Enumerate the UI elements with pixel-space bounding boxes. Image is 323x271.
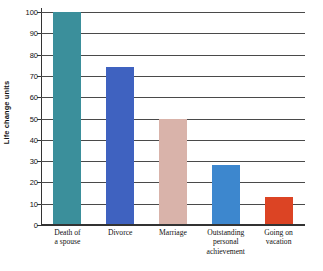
x-axis-category-labels: Death ofa spouseDivorceMarriageOutstandi… [41, 228, 305, 271]
gridline [41, 225, 305, 226]
x-axis-label-line: Going on [252, 228, 305, 237]
bar [106, 67, 134, 225]
y-axis-tick-mark [37, 225, 41, 226]
x-axis-label-line: achievement [199, 247, 252, 256]
x-axis-label-line: personal [199, 237, 252, 246]
x-axis-category-label: Going onvacation [252, 228, 305, 247]
x-axis-category-label: Outstandingpersonalachievement [199, 228, 252, 256]
y-axis-title-text: Life change units [3, 81, 12, 144]
x-axis-label-line: Death of [41, 228, 94, 237]
plot-area [41, 12, 305, 225]
x-axis-category-label: Death ofa spouse [41, 228, 94, 247]
x-axis-label-line: Outstanding [199, 228, 252, 237]
x-axis-category-label: Marriage [147, 228, 200, 237]
x-axis-label-line: vacation [252, 237, 305, 246]
bar [53, 12, 81, 225]
bar [265, 197, 293, 225]
x-axis-category-label: Divorce [94, 228, 147, 237]
x-axis-label-line: Divorce [94, 228, 147, 237]
bar-series [41, 12, 305, 225]
bar [159, 119, 187, 226]
bar-chart-figure: Life change units 0102030405060708090100… [0, 0, 323, 271]
x-axis-label-line: Marriage [147, 228, 200, 237]
y-axis-title: Life change units [0, 0, 14, 225]
bar [212, 165, 240, 225]
x-axis-label-line: a spouse [41, 237, 94, 246]
x-axis-line [41, 224, 305, 225]
